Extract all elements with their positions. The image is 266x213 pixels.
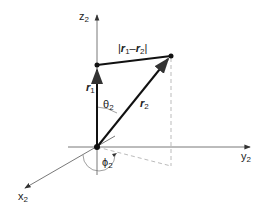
z-axis-label: z2 <box>79 11 89 24</box>
r2-label: r2 <box>140 98 149 111</box>
phi-arrowhead <box>112 153 117 157</box>
diagram-canvas <box>0 0 266 213</box>
phi-label: ϕ2 <box>102 157 113 170</box>
y-axis-label: y2 <box>241 151 251 164</box>
theta-label: θ2 <box>103 99 114 112</box>
r1-tip-point <box>95 63 100 68</box>
difference-line <box>97 56 171 65</box>
difference-label: |r1–r2| <box>118 43 147 56</box>
r2-tip-point <box>169 54 174 59</box>
origin-point <box>94 144 100 150</box>
x-axis-label: x2 <box>18 191 28 204</box>
r1-label: r1 <box>86 82 95 95</box>
